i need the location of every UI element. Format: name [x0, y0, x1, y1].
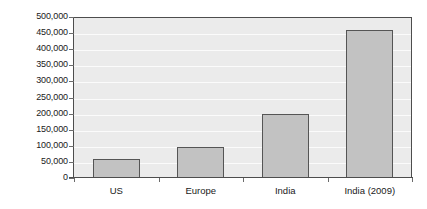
y-tick-label: 200,000 [0, 109, 68, 118]
y-tick-label: 150,000 [0, 125, 68, 134]
x-axis-line [69, 177, 413, 178]
bar [93, 159, 140, 178]
x-tick-mark [412, 178, 413, 182]
bars-layer [74, 18, 412, 178]
x-tick-mark [74, 178, 75, 182]
x-tick-label: India (2009) [328, 185, 413, 196]
y-tick-label: 450,000 [0, 28, 68, 37]
x-tick-label: Europe [159, 185, 244, 196]
bar [262, 114, 309, 178]
bar [177, 147, 224, 178]
y-tick-label: 0 [0, 173, 68, 182]
y-tick-label: 50,000 [0, 157, 68, 166]
x-tick-label: US [74, 185, 159, 196]
x-axis-tick-labels: USEuropeIndiaIndia (2009) [74, 185, 412, 205]
y-tick-label: 250,000 [0, 93, 68, 102]
y-tick-label: 500,000 [0, 12, 68, 21]
bar-chart: 500,000 450,000 400,000 350,000 300,000 … [0, 0, 427, 209]
bar [346, 30, 393, 178]
y-tick-label: 350,000 [0, 60, 68, 69]
y-tick-label: 100,000 [0, 141, 68, 150]
x-tick-label: India [243, 185, 328, 196]
y-axis-tick-labels: 500,000 450,000 400,000 350,000 300,000 … [0, 0, 68, 209]
plot-area [74, 17, 412, 178]
y-tick-label: 400,000 [0, 44, 68, 53]
x-tick-mark [243, 178, 244, 182]
y-tick-label: 300,000 [0, 76, 68, 85]
x-tick-mark [159, 178, 160, 182]
x-tick-mark [328, 178, 329, 182]
